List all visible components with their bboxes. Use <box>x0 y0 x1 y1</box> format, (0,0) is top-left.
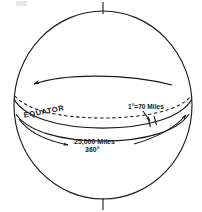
degree-scale-label: 1°=70 Miles <box>128 103 164 110</box>
total-degrees-label: 360° <box>85 146 99 153</box>
circumference-arrow-right <box>134 115 186 144</box>
earth-diagram-svg <box>0 0 202 212</box>
degree-callout-pointer <box>143 111 150 121</box>
circumference-label: 25,000 Miles <box>74 138 115 145</box>
westward-direction-arrow <box>34 76 172 85</box>
degree-tick-mark-right <box>154 116 157 125</box>
earth-equator-diagram: EQUATOR 1°=70 Miles 25,000 Miles 360° <box>0 0 202 212</box>
sphere-outline <box>14 11 192 199</box>
